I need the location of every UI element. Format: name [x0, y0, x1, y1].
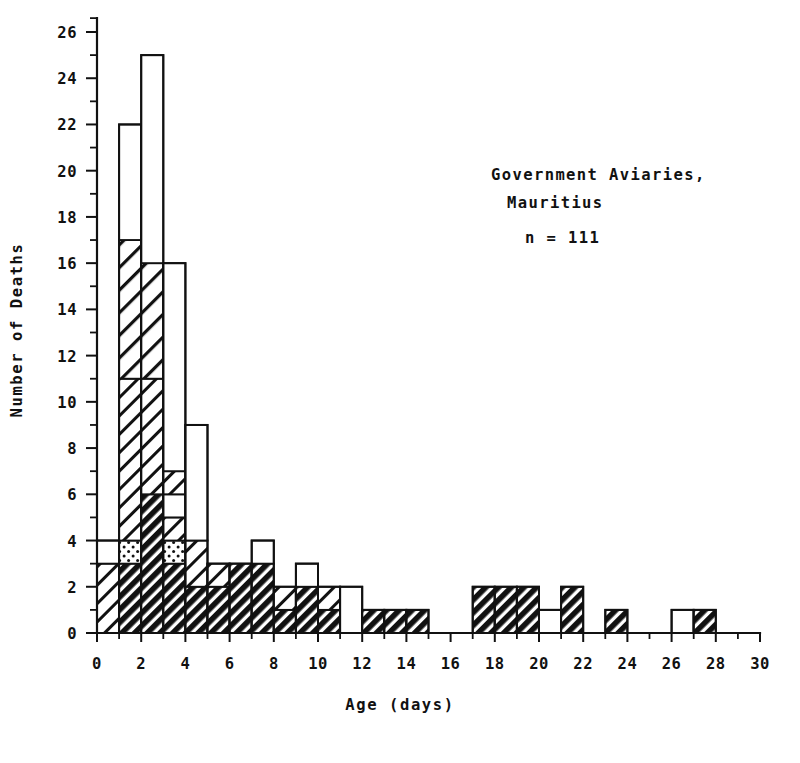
bar-segment-open [163, 494, 185, 517]
bar-segment-light-hatch [97, 564, 119, 633]
bar-segment-dark-hatch [362, 610, 384, 633]
bar-segment-dark-hatch [185, 587, 207, 633]
histogram-bar [296, 564, 318, 633]
histogram-bar [163, 263, 185, 633]
y-tick-label: 20 [57, 163, 77, 181]
histogram-bar [252, 541, 274, 633]
x-tick-label: 26 [662, 655, 682, 673]
bar-segment-light-hatch [119, 379, 141, 541]
bar-segment-dark-hatch [296, 587, 318, 633]
bar-series [97, 55, 716, 633]
annotation-sample-size: n = 111 [525, 229, 600, 247]
y-tick-label: 16 [57, 255, 77, 273]
x-axis-ticklabels: 024681012141618202224262830 [92, 655, 770, 673]
histogram-bar [274, 587, 296, 633]
histogram-bar [318, 587, 340, 633]
bar-segment-dark-hatch [318, 610, 340, 633]
bar-segment-dark-hatch [119, 564, 141, 633]
bar-segment-open [119, 124, 141, 240]
histogram-bar [384, 610, 406, 633]
bar-segment-light-hatch [141, 379, 163, 495]
bar-segment-light-hatch-wide [119, 240, 141, 379]
bar-segment-open [252, 541, 274, 564]
bar-segment-dark-hatch [252, 564, 274, 633]
bar-segment-open [672, 610, 694, 633]
histogram-bar [495, 587, 517, 633]
bar-segment-dark-hatch [163, 564, 185, 633]
histogram-bar [185, 425, 207, 633]
histogram-bar [406, 610, 428, 633]
y-tick-label: 4 [67, 533, 77, 551]
y-tick-label: 2 [67, 579, 77, 597]
x-tick-label: 4 [180, 655, 190, 673]
bar-segment-light-hatch [208, 564, 230, 587]
histogram-figure: 024681012141618202224262830 024681012141… [0, 0, 800, 763]
chart-canvas: 024681012141618202224262830 024681012141… [0, 0, 800, 763]
y-tick-label: 12 [57, 348, 77, 366]
bar-segment-dark-hatch [406, 610, 428, 633]
y-axis-title: Number of Deaths [8, 243, 26, 418]
bar-segment-dark-hatch [495, 587, 517, 633]
histogram-bar [561, 587, 583, 633]
histogram-bar [208, 564, 230, 633]
x-tick-label: 0 [92, 655, 102, 673]
bar-segment-dark-hatch [274, 610, 296, 633]
bar-segment-open [163, 263, 185, 471]
x-tick-label: 30 [750, 655, 770, 673]
x-tick-label: 12 [352, 655, 372, 673]
bar-segment-dark-hatch [141, 494, 163, 633]
y-tick-label: 6 [67, 486, 77, 504]
annotation-location-line2: Mauritius [507, 194, 604, 212]
bar-segment-dark-hatch [605, 610, 627, 633]
histogram-bar [230, 564, 252, 633]
histogram-bar [605, 610, 627, 633]
bar-segment-dark-hatch [384, 610, 406, 633]
x-tick-label: 24 [618, 655, 638, 673]
histogram-bar [119, 124, 141, 633]
y-tick-label: 24 [57, 70, 77, 88]
bar-segment-open [141, 55, 163, 263]
x-tick-label: 2 [136, 655, 146, 673]
histogram-bar [141, 55, 163, 633]
x-tick-label: 20 [529, 655, 549, 673]
bar-segment-light-hatch [163, 471, 185, 494]
y-tick-label: 14 [57, 301, 77, 319]
histogram-bar [340, 587, 362, 633]
x-tick-label: 22 [573, 655, 593, 673]
bar-segment-open [340, 587, 362, 633]
x-tick-label: 16 [441, 655, 461, 673]
histogram-bar [97, 541, 119, 633]
bar-segment-open [185, 425, 207, 541]
y-axis-ticklabels: 02468101214161820222426 [57, 24, 77, 643]
bar-segment-light-hatch [318, 587, 340, 610]
histogram-bar [517, 587, 539, 633]
x-tick-label: 28 [706, 655, 726, 673]
histogram-bar [362, 610, 384, 633]
bar-segment-open [97, 541, 119, 564]
bar-segment-dark-hatch [694, 610, 716, 633]
x-tick-label: 6 [225, 655, 235, 673]
histogram-bar [694, 610, 716, 633]
bar-segment-open [296, 564, 318, 587]
bar-segment-light-hatch [274, 587, 296, 610]
histogram-bar [672, 610, 694, 633]
bar-segment-dark-hatch [561, 587, 583, 633]
bar-segment-light-hatch-wide [141, 263, 163, 379]
annotation-location-line1: Government Aviaries, [491, 166, 706, 184]
bar-segment-stipple [163, 541, 185, 564]
x-tick-label: 8 [269, 655, 279, 673]
histogram-bar [539, 610, 561, 633]
bar-segment-light-hatch [185, 541, 207, 587]
y-tick-label: 8 [67, 440, 77, 458]
bar-segment-open [539, 610, 561, 633]
x-tick-label: 10 [308, 655, 328, 673]
bar-segment-dark-hatch [517, 587, 539, 633]
y-tick-label: 10 [57, 394, 77, 412]
bar-segment-light-hatch [163, 517, 185, 540]
x-tick-label: 14 [397, 655, 417, 673]
y-tick-label: 26 [57, 24, 77, 42]
histogram-bar [473, 587, 495, 633]
bar-segment-dark-hatch [473, 587, 495, 633]
x-axis-title: Age (days) [345, 696, 454, 714]
bar-segment-stipple [119, 541, 141, 564]
